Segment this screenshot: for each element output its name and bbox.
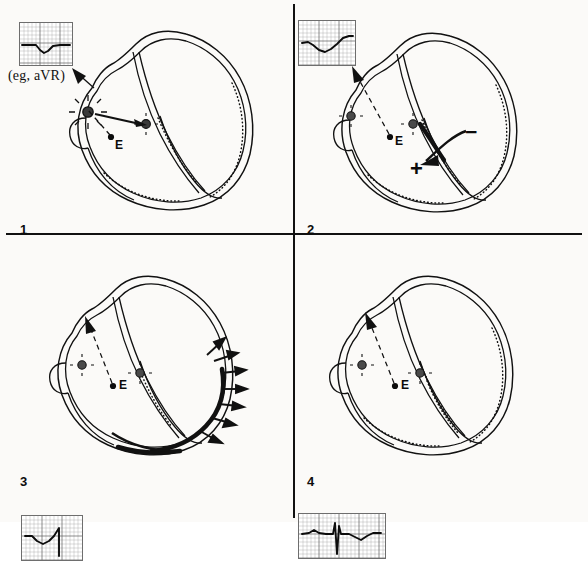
panel-number-3: 3 — [20, 474, 27, 489]
sa-node-burst-icon — [69, 95, 107, 129]
heart-diagram-2 — [294, 0, 588, 261]
panel-number-2: 2 — [307, 222, 314, 237]
electrode-vector-4 — [365, 312, 398, 389]
electrode-label-3: E — [119, 378, 127, 392]
depolarized-wall-band — [118, 369, 223, 453]
panel-4: E 4 — [294, 261, 588, 522]
electrode-vector-3 — [85, 316, 116, 389]
electrode-label-2: E — [395, 134, 403, 148]
sa-node-icon — [350, 354, 374, 376]
heart-diagram-4 — [294, 261, 588, 522]
panel-3: E 3 — [0, 261, 294, 522]
panel-number-1: 1 — [20, 222, 27, 237]
panel-2: − + E 2 — [294, 0, 588, 261]
ecg-trace-3 — [22, 516, 82, 560]
panel-1: (eg, aVR) — [0, 0, 294, 261]
polarity-positive: + — [410, 156, 423, 182]
polarity-negative: − — [465, 120, 477, 144]
panel-number-4: 4 — [307, 474, 314, 489]
heart-diagram-1 — [0, 0, 294, 261]
electrode-label-1: E — [115, 138, 123, 152]
electrode-label-4: E — [401, 378, 409, 392]
heart-diagram-3 — [0, 261, 294, 522]
sa-node-icon — [70, 354, 94, 376]
impulse-arrow-1 — [95, 114, 147, 127]
